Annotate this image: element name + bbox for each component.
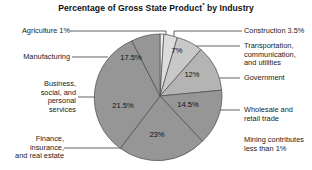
pie-value-business: 21.5% xyxy=(112,101,134,110)
label-manufacturing: Manufacturing xyxy=(2,53,70,62)
label-agriculture: Agriculture 1% xyxy=(2,27,70,36)
pie-value-transportation: 7% xyxy=(172,46,183,55)
pie-value-government: 12% xyxy=(184,70,199,79)
label-construction: Construction 3.5% xyxy=(244,27,312,36)
pie-value-manufacturing: 17.5% xyxy=(120,53,142,62)
pie-value-wholesale: 14.5% xyxy=(177,100,199,109)
label-mining-note: Mining contributes less than 1% xyxy=(244,136,312,153)
label-business: Business, social, and personal services xyxy=(2,80,76,114)
label-finance: Finance, insurance, and real estate xyxy=(2,135,64,161)
pie-chart-figure: Percentage of Gross State Product* by In… xyxy=(0,0,312,170)
label-wholesale: Wholesale and retail trade xyxy=(244,106,312,123)
pie-value-finance: 23% xyxy=(149,130,164,139)
label-government: Government xyxy=(244,74,312,83)
label-transportation: Transportation, communication, and utili… xyxy=(244,42,312,68)
leader-line-construction xyxy=(174,31,242,37)
